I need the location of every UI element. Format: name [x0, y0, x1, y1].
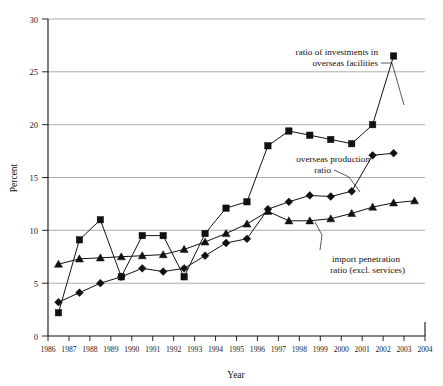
data-point — [55, 310, 61, 316]
x-tick-label: 1990 — [124, 345, 139, 354]
y-tick-label: 20 — [30, 120, 39, 130]
y-tick-label: 25 — [30, 67, 39, 77]
y-tick-label: 15 — [30, 173, 39, 183]
line-chart-canvas: 30 25 20 15 10 5 0 Percent 1986198719881… — [0, 0, 443, 386]
data-point — [244, 199, 250, 205]
data-point — [307, 132, 313, 138]
x-tick-label: 1997 — [271, 345, 286, 354]
data-point — [328, 136, 334, 142]
data-point — [265, 143, 271, 149]
x-tick-label: 1988 — [82, 345, 97, 354]
data-point — [348, 140, 354, 146]
chart-figure: 30 25 20 15 10 5 0 Percent 1986198719881… — [0, 0, 443, 386]
y-tick-labels: 30 25 20 15 10 5 0 — [30, 15, 39, 342]
data-point — [369, 121, 375, 127]
x-axis-title: Year — [227, 370, 245, 380]
y-tick-label: 0 — [34, 332, 38, 342]
y-axis-title: Percent — [9, 163, 19, 192]
x-tick-label: 1995 — [229, 345, 244, 354]
x-tick-label: 1999 — [313, 345, 328, 354]
data-point — [286, 128, 292, 134]
y-tick-label: 30 — [30, 15, 39, 25]
x-tick-label: 1993 — [187, 345, 202, 354]
annot-import-line1: import penetration — [332, 254, 401, 264]
annot-investments-line1: ratio of investments in — [296, 47, 379, 57]
x-tick-marks — [48, 336, 425, 341]
annot-production-line1: overseas production — [296, 154, 370, 164]
x-tick-label: 1992 — [166, 345, 181, 354]
y-tick-label: 5 — [34, 279, 38, 289]
annot-production-line2: ratio — [314, 165, 331, 175]
annot-investments-line2: overseas facilities — [312, 58, 378, 68]
data-point — [97, 217, 103, 223]
annot-import-line2: ratio (excl. services) — [330, 265, 405, 275]
data-point — [160, 232, 166, 238]
x-tick-label: 1989 — [103, 345, 118, 354]
x-tick-label: 1987 — [61, 345, 76, 354]
y-tick-marks — [42, 19, 48, 336]
x-tick-label: 1998 — [292, 345, 307, 354]
x-tick-label: 2002 — [376, 345, 391, 354]
x-tick-label: 1994 — [208, 345, 223, 354]
x-tick-label: 1996 — [250, 345, 265, 354]
x-tick-labels: 1986198719881989199019911992199319941995… — [40, 345, 432, 354]
data-point — [76, 237, 82, 243]
x-tick-label: 2000 — [334, 345, 349, 354]
data-point — [202, 230, 208, 236]
x-tick-label: 1986 — [40, 345, 55, 354]
data-point — [223, 205, 229, 211]
x-tick-label: 1991 — [145, 345, 160, 354]
data-point — [181, 274, 187, 280]
x-tick-label: 2003 — [396, 345, 411, 354]
x-tick-label: 2001 — [355, 345, 370, 354]
x-tick-label: 2004 — [417, 345, 432, 354]
data-point — [390, 53, 396, 59]
y-tick-label: 10 — [30, 226, 39, 236]
data-point — [139, 232, 145, 238]
